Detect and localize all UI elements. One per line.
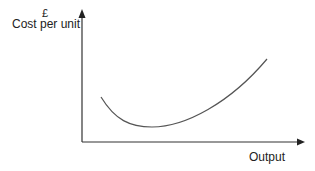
average-cost-curve: [101, 59, 267, 127]
x-axis-label: Output: [249, 151, 285, 163]
x-axis: [82, 139, 305, 146]
x-axis-arrow-icon: [297, 139, 305, 146]
y-axis-label: Cost per unit: [12, 18, 80, 30]
